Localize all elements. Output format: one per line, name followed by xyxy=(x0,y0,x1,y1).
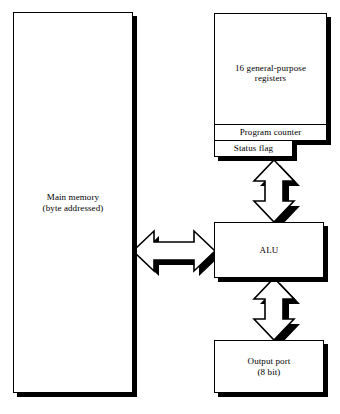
program-counter-label: Program counter xyxy=(238,127,304,137)
connector-alu-to-output-port-icon xyxy=(243,273,305,345)
registers-label: 16 general-purpose registers xyxy=(233,63,308,84)
diagram-canvas: Main memory (byte addressed) 16 general-… xyxy=(0,0,340,414)
output-port-label: Output port (8 bit) xyxy=(246,356,293,377)
block-main-memory: Main memory (byte addressed) xyxy=(13,12,133,393)
connector-registers-to-alu-icon xyxy=(243,155,305,227)
registers-line2: registers xyxy=(255,73,286,83)
block-output-port: Output port (8 bit) xyxy=(214,340,324,393)
block-general-purpose-registers: 16 general-purpose registers xyxy=(214,13,327,125)
block-alu: ALU xyxy=(214,222,324,278)
main-memory-label: Main memory (byte addressed) xyxy=(41,192,106,213)
block-status-flag: Status flag xyxy=(214,140,293,157)
status-flag-label: Status flag xyxy=(232,143,275,153)
main-memory-line1: Main memory xyxy=(47,192,99,202)
main-memory-line2: (byte addressed) xyxy=(43,203,104,213)
alu-label: ALU xyxy=(258,245,281,255)
output-port-line1: Output port xyxy=(248,356,291,366)
block-program-counter: Program counter xyxy=(214,124,327,141)
output-port-line2: (8 bit) xyxy=(258,367,281,377)
connector-main-memory-to-alu-icon xyxy=(128,222,220,280)
registers-line1: 16 general-purpose xyxy=(235,63,306,73)
